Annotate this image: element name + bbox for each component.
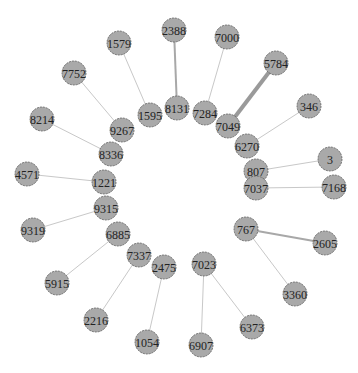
node-9267[interactable]: 9267: [110, 118, 134, 142]
node-6885[interactable]: 6885: [106, 222, 130, 246]
node-label: 2388: [162, 24, 186, 38]
node-label: 767: [237, 223, 255, 237]
node-7023[interactable]: 7023: [192, 252, 216, 276]
node-7049[interactable]: 7049: [216, 114, 240, 138]
network-graph: 2388813115791595700072845784704934662707…: [0, 0, 358, 373]
node-label: 4571: [15, 168, 39, 182]
node-9315[interactable]: 9315: [94, 196, 118, 220]
node-1595[interactable]: 1595: [138, 103, 162, 127]
node-label: 2216: [84, 314, 108, 328]
node-7337[interactable]: 7337: [127, 243, 151, 267]
node-label: 5915: [45, 277, 69, 291]
node-6373[interactable]: 6373: [240, 315, 264, 339]
node-label: 7049: [216, 120, 240, 134]
node-1579[interactable]: 1579: [107, 31, 131, 55]
node-label: 3: [327, 153, 333, 167]
node-label: 7037: [244, 182, 268, 196]
node-label: 6885: [106, 228, 130, 242]
node-label: 8336: [99, 148, 123, 162]
node-1054[interactable]: 1054: [135, 330, 159, 354]
node-label: 8214: [30, 113, 54, 127]
node-6907[interactable]: 6907: [189, 333, 213, 357]
node-label: 8131: [165, 102, 189, 116]
node-label: 1054: [135, 336, 159, 350]
node-346[interactable]: 346: [297, 94, 321, 118]
node-label: 1595: [138, 109, 162, 123]
node-7037[interactable]: 7037: [244, 176, 268, 200]
node-label: 6373: [240, 321, 264, 335]
node-6270[interactable]: 6270: [235, 134, 259, 158]
node-8131[interactable]: 8131: [165, 96, 189, 120]
node-3[interactable]: 3: [318, 147, 342, 171]
node-5915[interactable]: 5915: [45, 271, 69, 295]
node-4571[interactable]: 4571: [15, 162, 39, 186]
node-5784[interactable]: 5784: [264, 51, 288, 75]
node-label: 346: [300, 100, 318, 114]
node-label: 1579: [107, 37, 131, 51]
node-label: 7168: [322, 181, 346, 195]
node-label: 7023: [192, 258, 216, 272]
node-3360[interactable]: 3360: [283, 282, 307, 306]
node-label: 9267: [110, 124, 134, 138]
node-label: 5784: [264, 57, 288, 71]
node-7168[interactable]: 7168: [322, 175, 346, 199]
node-label: 7752: [62, 67, 86, 81]
node-label: 9315: [94, 202, 118, 216]
node-2216[interactable]: 2216: [84, 308, 108, 332]
node-label: 7000: [215, 31, 239, 45]
node-2605[interactable]: 2605: [313, 231, 337, 255]
node-label: 2475: [152, 261, 176, 275]
node-2475[interactable]: 2475: [152, 255, 176, 279]
node-9319[interactable]: 9319: [21, 218, 45, 242]
node-8214[interactable]: 8214: [30, 107, 54, 131]
node-7000[interactable]: 7000: [215, 25, 239, 49]
node-1221[interactable]: 1221: [92, 170, 116, 194]
node-7284[interactable]: 7284: [193, 101, 217, 125]
node-label: 7284: [193, 107, 217, 121]
node-label: 7337: [127, 249, 151, 263]
node-label: 2605: [313, 237, 337, 251]
node-label: 6907: [189, 339, 213, 353]
node-7752[interactable]: 7752: [62, 61, 86, 85]
node-767[interactable]: 767: [234, 217, 258, 241]
node-2388[interactable]: 2388: [162, 18, 186, 42]
node-label: 1221: [92, 176, 116, 190]
node-label: 9319: [21, 224, 45, 238]
node-label: 6270: [235, 140, 259, 154]
node-label: 3360: [283, 288, 307, 302]
node-8336[interactable]: 8336: [99, 142, 123, 166]
